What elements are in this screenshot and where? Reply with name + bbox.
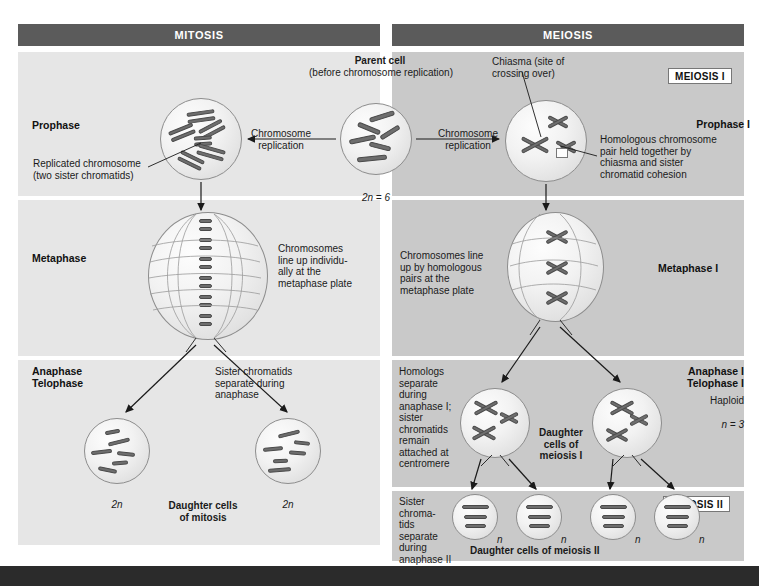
chromatid xyxy=(465,524,486,528)
chromatid xyxy=(464,515,487,519)
chromatid xyxy=(526,505,553,509)
meiosis2-cell-1-ploidy: n xyxy=(497,534,503,546)
note-sister-chromatids-separate-anaphase2: Sister chroma- tids separate during anap… xyxy=(399,496,457,565)
aligned-chromosome xyxy=(199,295,212,307)
aligned-homologous-pair xyxy=(545,226,569,248)
haploid-n-value: n = 3 xyxy=(721,419,744,430)
bottom-bar xyxy=(0,566,759,586)
chromosome xyxy=(263,446,283,452)
label-chromosome-replication-left: Chromosome replication xyxy=(238,128,324,151)
chromosome xyxy=(108,437,130,446)
chromosome-pair xyxy=(605,425,629,444)
chromosome xyxy=(289,450,306,455)
stage-label-prophase: Prophase xyxy=(32,119,80,131)
badge-meiosis-1: MEIOSIS I xyxy=(668,68,732,84)
ploidy-value: 2n xyxy=(282,499,293,510)
chromatid xyxy=(667,524,688,528)
caption-daughter-cells-mitosis: Daughter cells of mitosis xyxy=(128,500,278,523)
column-header-mitosis: MITOSIS xyxy=(18,24,380,46)
chromosome xyxy=(273,459,288,464)
mitosis-metaphase-cell xyxy=(148,212,268,340)
aligned-homologous-pair xyxy=(545,287,569,309)
chromosome xyxy=(294,440,310,446)
chromatid xyxy=(603,524,624,528)
mitosis-daughter-cell-2 xyxy=(255,418,321,484)
meiosis1-daughter-cell-1 xyxy=(460,388,530,458)
note-homologous-pair: Homologous chromosome pair held together… xyxy=(600,134,750,180)
stage-label-metaphase1: Metaphase I xyxy=(658,262,718,274)
stage-label-anaphase1-telophase1: Anaphase I Telophase I xyxy=(640,365,744,389)
meiosis2-daughter-cell-3 xyxy=(590,494,636,540)
parent-cell xyxy=(340,103,412,175)
parent-cell-ploidy-value: 2n = 6 xyxy=(362,192,390,203)
chromosome xyxy=(278,429,300,438)
chromosome-pair xyxy=(471,423,497,443)
chromatid xyxy=(529,524,550,528)
mitosis-meiosis-figure: MITOSIS MEIOSIS MEIOSIS I MEIOSIS II Par… xyxy=(0,0,759,586)
stage-label-prophase1: Prophase I xyxy=(600,118,750,130)
note-meiosis-metaphase1: Chromosomes line up by homologous pairs … xyxy=(400,250,500,296)
stage-label-anaphase-telophase: Anaphase Telophase xyxy=(32,365,83,389)
chromatid xyxy=(528,515,551,519)
label-chromosome-replication-right: Chromosome replication xyxy=(425,128,511,151)
aligned-homologous-pair xyxy=(545,257,569,279)
meiosis2-cell-3-ploidy: n xyxy=(635,534,641,546)
replicated-chromosome xyxy=(168,123,196,143)
chromatid xyxy=(462,505,489,509)
note-homologs-separate: Homologs separate during anaphase I; sis… xyxy=(399,366,461,470)
meiosis2-daughter-cell-2 xyxy=(516,494,562,540)
meiosis2-daughter-cell-1 xyxy=(452,494,498,540)
parent-cell-ploidy: 2n = 6 xyxy=(340,180,412,203)
meiosis2-cell-2-ploidy: n xyxy=(561,534,567,546)
homologous-pair-tetrad xyxy=(520,134,550,156)
meiosis-prophase1-cell xyxy=(505,100,587,182)
chromosome xyxy=(369,141,392,151)
label-haploid: Haploid xyxy=(640,395,744,407)
ploidy-value: 2n xyxy=(111,499,122,510)
column-header-meiosis: MEIOSIS xyxy=(392,24,744,46)
callout-chiasma: Chiasma (site of crossing over) xyxy=(492,56,602,79)
meiosis2-cell-4-ploidy: n xyxy=(699,534,705,546)
aligned-chromosome xyxy=(199,219,212,231)
chromosome xyxy=(112,460,128,465)
label-haploid-n: n = 3 xyxy=(640,407,744,430)
parent-cell-title: Parent cell xyxy=(300,55,460,67)
chromosome xyxy=(369,110,395,123)
note-mitosis-metaphase: Chromosomes line up individu- ally at th… xyxy=(278,243,378,289)
meiosis2-daughter-cell-4 xyxy=(654,494,700,540)
mitosis-daughter-cell-1 xyxy=(84,418,150,484)
chromosome xyxy=(357,122,381,136)
chromatid xyxy=(600,505,627,509)
stage-label-metaphase: Metaphase xyxy=(32,252,86,264)
chromosome xyxy=(268,467,291,473)
aligned-chromosome xyxy=(199,238,212,250)
chromatid xyxy=(666,515,689,519)
caption-daughter-cells-meiosis1: Daughter cells of meiosis I xyxy=(528,427,594,462)
chromosome xyxy=(98,466,117,474)
aligned-chromosome xyxy=(199,314,212,326)
chromatid xyxy=(664,505,691,509)
chromosome xyxy=(105,429,120,436)
note-sister-chromatids-separate: Sister chromatids separate during anapha… xyxy=(215,366,335,401)
aligned-chromosome xyxy=(199,276,212,288)
chromosome xyxy=(117,451,135,457)
chromosome xyxy=(379,125,400,141)
aligned-chromosome xyxy=(199,257,212,269)
chromosome-pair xyxy=(473,398,499,418)
homologous-pair-tetrad xyxy=(547,112,569,132)
callout-replicated-chromosome: Replicated chromosome (two sister chroma… xyxy=(33,158,183,181)
chromosome xyxy=(91,449,112,455)
meiosis-metaphase1-cell xyxy=(507,212,604,322)
chromatid xyxy=(602,515,625,519)
caption-daughter-cells-meiosis2: Daughter cells of meiosis II xyxy=(470,545,680,557)
chromosome-pair xyxy=(499,409,519,427)
parent-cell-subtitle: (before chromosome replication) xyxy=(286,67,476,79)
chromosome xyxy=(357,154,387,162)
chiasma-highlight-box xyxy=(556,148,568,158)
